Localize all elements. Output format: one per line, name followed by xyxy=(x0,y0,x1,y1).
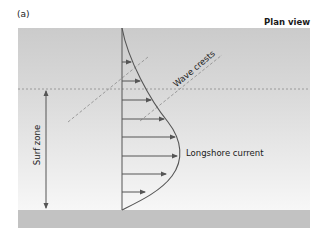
panel-label: (a) xyxy=(17,9,30,19)
surf-zone-label: Surf zone xyxy=(32,125,42,165)
longshore-current-diagram: (a) Plan view Wave crests Surf zone Long… xyxy=(0,0,325,237)
beach-band xyxy=(18,210,310,228)
view-label: Plan view xyxy=(264,17,310,27)
longshore-current-label: Longshore current xyxy=(186,148,264,158)
